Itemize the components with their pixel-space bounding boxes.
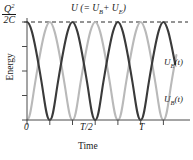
total-energy-annotation: U (= UB+ UE) [71,4,126,15]
y-axis-max-label: Q2 2C [2,3,16,25]
x-tick-label-period: T [139,123,144,133]
curve-ub [27,22,176,120]
x-tick-label-zero: 0 [24,123,29,133]
y-axis-title: Energy [6,42,16,92]
y-axis-ticks [22,22,27,96]
chart-figure: Q2 2C U (= UB+ UE) Energy Time 0 T/2 T U… [0,0,193,160]
chart-plot-area [0,0,193,160]
curve-label-ub: UB(t) [164,95,183,106]
x-tick-label-half-period: T/2 [80,123,93,133]
ymax-denominator: 2C [2,15,16,25]
curve-label-ue: UE(t) [164,58,183,69]
ymax-exponent: 2 [11,2,14,9]
x-axis-title: Time [78,142,98,152]
